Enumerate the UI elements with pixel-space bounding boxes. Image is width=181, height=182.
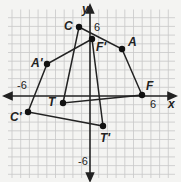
label-T: T: [48, 96, 55, 108]
point-A-prime: [44, 61, 50, 67]
label-T-prime: T': [100, 132, 110, 144]
tick-x-6: 6: [150, 99, 156, 110]
point-T-prime: [100, 123, 106, 129]
point-F: [139, 92, 145, 98]
tick-x-neg-6: -6: [17, 80, 27, 91]
label-C: C: [64, 20, 73, 32]
point-C-prime: [25, 109, 31, 115]
grid: [8, 10, 175, 179]
coordinate-plane: [0, 0, 181, 182]
point-T: [60, 100, 66, 106]
label-A: A: [128, 36, 137, 48]
tick-y-neg-6: -6: [78, 156, 88, 167]
x-axis-label: x: [168, 98, 175, 110]
label-C-prime: C': [10, 111, 22, 123]
label-F-prime: F': [96, 41, 106, 53]
tick-y-6: 6: [94, 22, 100, 33]
polygon-CprimeAprimeFprimeTprime: [28, 39, 103, 126]
x-axis-arrow-left-icon: [4, 93, 12, 100]
y-axis-label: y: [82, 3, 89, 15]
point-F-prime: [89, 36, 95, 42]
label-F: F: [146, 80, 153, 92]
point-C: [76, 24, 82, 30]
y-axis-arrow-down-icon: [87, 173, 94, 181]
point-A: [119, 46, 125, 52]
label-A-prime: A': [31, 57, 43, 69]
